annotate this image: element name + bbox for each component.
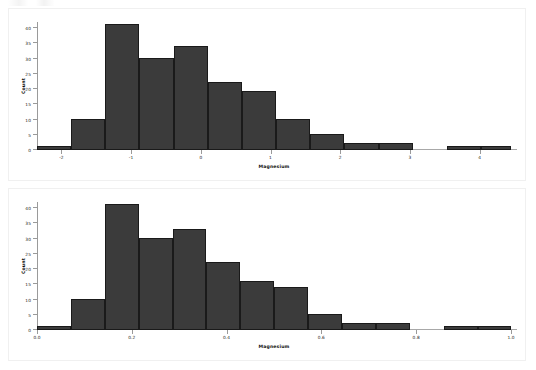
histogram-bar — [139, 238, 173, 330]
histogram-bar — [379, 143, 413, 150]
y-axis-tick — [33, 253, 37, 254]
x-axis-tick — [37, 330, 38, 334]
x-axis-tick-label: -2 — [59, 155, 63, 160]
histogram-bar — [478, 326, 511, 330]
y-axis-tick — [33, 299, 37, 300]
clipped-top-artifact — [8, 0, 68, 6]
chart-panel-magnesium-normalized: Count Magnesium 05101520253035400.00.20.… — [8, 188, 526, 361]
histogram-bar — [308, 314, 342, 330]
y-axis-tick-label: 40 — [25, 206, 31, 211]
histogram-bar — [105, 24, 139, 150]
histogram-bar — [240, 281, 274, 330]
y-axis-tick — [33, 134, 37, 135]
y-axis-tick — [33, 88, 37, 89]
histogram-bar — [447, 146, 481, 150]
y-axis-tick-label: 20 — [25, 87, 31, 92]
y-axis-tick — [33, 42, 37, 43]
y-axis-tick-label: 25 — [25, 251, 31, 256]
x-axis-label: Magnesium — [258, 344, 289, 349]
y-axis-tick — [33, 103, 37, 104]
y-axis-tick-label: 10 — [25, 297, 31, 302]
y-axis-tick-label: 30 — [25, 56, 31, 61]
x-axis-tick — [321, 330, 322, 334]
y-axis-tick-label: 20 — [25, 267, 31, 272]
y-axis-tick-label: 30 — [25, 236, 31, 241]
y-axis-tick — [33, 119, 37, 120]
histogram-bar — [105, 204, 139, 330]
x-axis-tick — [61, 150, 62, 154]
histogram-bar — [376, 323, 410, 330]
x-axis-tick — [511, 330, 512, 334]
y-axis-tick — [33, 58, 37, 59]
y-axis-tick-label: 5 — [28, 132, 31, 137]
y-axis-tick-label: 40 — [25, 26, 31, 31]
x-axis-tick-label: 0.8 — [413, 335, 420, 340]
x-axis-tick — [416, 330, 417, 334]
x-axis-tick-label: -1 — [129, 155, 133, 160]
figure-magnesium-raw: Count Magnesium 0510152025303540-2-10123… — [9, 9, 525, 180]
x-axis-tick — [271, 150, 272, 154]
x-axis-tick — [227, 330, 228, 334]
histogram-bar — [174, 46, 208, 150]
y-axis-tick-label: 5 — [28, 312, 31, 317]
x-axis-tick — [132, 330, 133, 334]
y-axis-tick — [33, 222, 37, 223]
y-axis-tick-label: 35 — [25, 221, 31, 226]
y-axis-tick-label: 15 — [25, 282, 31, 287]
histogram-bar — [444, 326, 478, 330]
axes-magnesium-normalized: Count Magnesium 05101520253035400.00.20.… — [37, 202, 511, 330]
y-axis-tick — [33, 283, 37, 284]
x-axis-tick — [201, 150, 202, 154]
x-axis-tick-label: 0.6 — [318, 335, 325, 340]
histogram-bar — [342, 323, 376, 330]
histogram-bar — [274, 287, 308, 330]
histogram-bar — [206, 262, 240, 330]
histogram-bar — [139, 58, 173, 150]
figure-magnesium-normalized: Count Magnesium 05101520253035400.00.20.… — [9, 189, 525, 360]
histogram-bar — [310, 134, 344, 150]
x-axis-label: Magnesium — [258, 164, 289, 169]
x-axis-tick — [410, 150, 411, 154]
histogram-bar — [481, 146, 511, 150]
y-axis-tick — [33, 268, 37, 269]
histogram-bar — [71, 299, 105, 330]
y-axis-tick — [33, 149, 37, 150]
histogram-bars-magnesium-normalized — [37, 202, 511, 330]
x-axis-tick — [480, 150, 481, 154]
y-axis-tick-label: 10 — [25, 117, 31, 122]
y-axis-tick — [33, 207, 37, 208]
y-axis-tick-label: 25 — [25, 71, 31, 76]
x-axis-tick — [340, 150, 341, 154]
histogram-bar — [37, 146, 71, 150]
histogram-bar — [276, 119, 310, 150]
y-axis-tick-label: 35 — [25, 41, 31, 46]
axes-magnesium-raw: Count Magnesium 0510152025303540-2-10123… — [37, 22, 511, 150]
page-root: Count Magnesium 0510152025303540-2-10123… — [0, 0, 536, 370]
histogram-bars-magnesium-raw — [37, 22, 511, 150]
x-axis-tick-label: 1 — [269, 155, 272, 160]
y-axis-tick-label: 0 — [28, 328, 31, 333]
y-axis-tick-label: 0 — [28, 148, 31, 153]
x-axis-tick — [131, 150, 132, 154]
histogram-bar — [173, 229, 207, 330]
histogram-bar — [37, 326, 71, 330]
x-axis-tick-label: 0.4 — [223, 335, 230, 340]
x-axis-tick-label: 4 — [478, 155, 481, 160]
x-axis-tick-label: 0.2 — [128, 335, 135, 340]
x-axis-tick-label: 1.0 — [507, 335, 514, 340]
y-axis-tick — [33, 27, 37, 28]
x-axis-tick-label: 3 — [409, 155, 412, 160]
x-axis-tick-label: 2 — [339, 155, 342, 160]
y-axis-tick — [33, 238, 37, 239]
histogram-bar — [344, 143, 378, 150]
chart-panel-magnesium-raw: Count Magnesium 0510152025303540-2-10123… — [8, 8, 526, 181]
x-axis-tick-label: 0 — [199, 155, 202, 160]
y-axis-tick-label: 15 — [25, 102, 31, 107]
histogram-bar — [242, 91, 276, 150]
y-axis-tick — [33, 73, 37, 74]
histogram-bar — [208, 82, 242, 150]
y-axis-tick — [33, 314, 37, 315]
x-axis-tick-label: 0.0 — [33, 335, 40, 340]
histogram-bar — [71, 119, 105, 150]
